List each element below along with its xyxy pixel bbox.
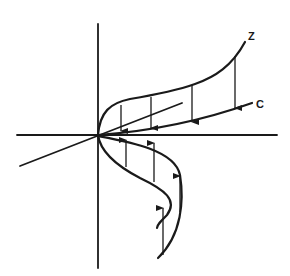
spiral-curve [98,135,171,228]
label-z: Z [248,30,255,42]
curve-z [98,42,245,135]
diagram-figure: Z C [0,0,290,276]
label-c: C [256,98,264,110]
diagram-canvas: Z C [0,0,290,276]
